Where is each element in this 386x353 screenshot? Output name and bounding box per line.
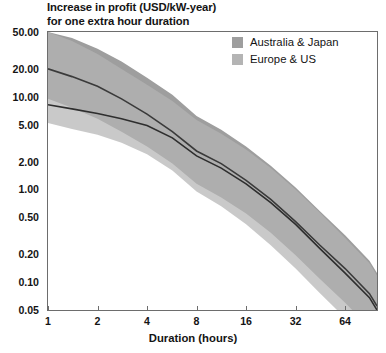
x-tick-mark — [197, 306, 198, 310]
x-tick-label: 64 — [339, 315, 351, 327]
x-tick-mark — [296, 306, 297, 310]
legend-item[interactable]: Australia & Japan — [232, 36, 339, 48]
legend-item[interactable]: Europe & US — [232, 53, 339, 65]
legend-swatch-icon — [232, 37, 243, 48]
x-tick-label: 8 — [194, 315, 200, 327]
chart-container: Increase in profit (USD/kW-year) for one… — [0, 0, 386, 353]
legend-swatch-icon — [232, 54, 243, 65]
chart-legend: Australia & JapanEurope & US — [232, 36, 339, 65]
x-tick-label: 32 — [290, 315, 302, 327]
x-tick-mark — [48, 306, 49, 310]
x-tick-mark — [98, 306, 99, 310]
x-tick-label: 4 — [144, 315, 150, 327]
x-tick-mark — [147, 306, 148, 310]
x-tick-label: 1 — [45, 315, 51, 327]
legend-label: Australia & Japan — [250, 36, 339, 48]
x-axis-title: Duration (hours) — [0, 332, 386, 344]
x-tick-label: 2 — [95, 315, 101, 327]
x-tick-mark — [246, 306, 247, 310]
x-tick-label: 16 — [240, 315, 252, 327]
legend-label: Europe & US — [250, 53, 316, 65]
x-tick-mark — [345, 306, 346, 310]
